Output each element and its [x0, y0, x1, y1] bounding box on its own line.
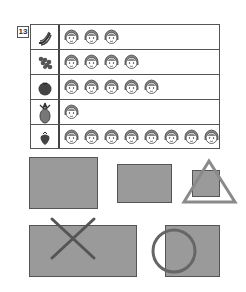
circle-icon	[153, 230, 195, 272]
triangle-icon	[184, 161, 235, 202]
cross-icon	[52, 219, 94, 258]
annotation-symbols	[0, 0, 246, 292]
